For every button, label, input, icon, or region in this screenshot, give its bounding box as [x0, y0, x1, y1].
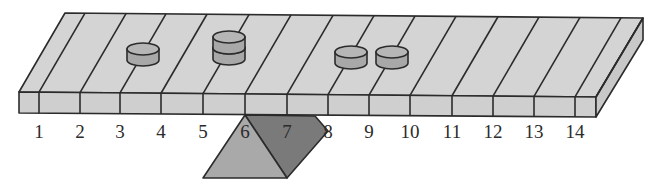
- weight-stack-pos-8: [335, 46, 367, 69]
- position-label: 3: [115, 121, 125, 142]
- beam-top-face: [19, 13, 643, 97]
- position-label: 12: [484, 121, 503, 142]
- position-label: 9: [364, 121, 374, 142]
- position-label: 5: [198, 121, 208, 142]
- weight-stack-pos-3: [127, 43, 159, 66]
- balance-diagram: 1234567891011121314: [0, 0, 661, 189]
- position-label: 6: [240, 121, 250, 142]
- position-label: 11: [443, 121, 461, 142]
- weight-disc-top: [213, 31, 245, 43]
- position-label: 8: [323, 121, 333, 142]
- position-label: 7: [282, 121, 292, 142]
- beam: [19, 13, 643, 117]
- beam-front-face: [19, 92, 596, 117]
- diagram-canvas: 1234567891011121314: [0, 0, 661, 189]
- position-label: 13: [525, 121, 544, 142]
- position-label: 1: [34, 121, 44, 142]
- weight-disc-top: [376, 46, 408, 58]
- position-label: 4: [156, 121, 166, 142]
- weight-stack-pos-5: [213, 31, 245, 65]
- position-label: 14: [566, 121, 586, 142]
- weight-disc-top: [127, 43, 159, 55]
- position-label: 10: [401, 121, 420, 142]
- fulcrum: [203, 115, 328, 178]
- weight-disc-top: [335, 46, 367, 58]
- weight-stack-pos-9: [376, 46, 408, 69]
- position-label: 2: [75, 121, 85, 142]
